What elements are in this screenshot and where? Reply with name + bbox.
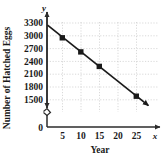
x-axis-title: Year bbox=[91, 145, 111, 155]
chart-container: 3300 3000 2700 2400 2100 1800 1500 0 5 1… bbox=[0, 0, 166, 157]
y-tick-label-1800: 1800 bbox=[24, 82, 43, 92]
y-tick-label-1500: 1500 bbox=[24, 95, 43, 105]
data-point-marker bbox=[78, 49, 83, 54]
data-point-marker bbox=[60, 35, 65, 40]
x-tick-label-10: 10 bbox=[76, 131, 86, 141]
y-tick-label-3300: 3300 bbox=[24, 18, 43, 28]
x-tick-label-25: 25 bbox=[132, 131, 142, 141]
x-axis-variable-symbol: x bbox=[152, 131, 158, 141]
y-tick-label-2400: 2400 bbox=[24, 57, 43, 67]
y-tick-label-2100: 2100 bbox=[24, 69, 43, 79]
y-tick-label-2700: 2700 bbox=[24, 44, 43, 54]
origin-label: 0 bbox=[38, 123, 43, 133]
y-tick-label-3000: 3000 bbox=[24, 31, 43, 41]
y-axis-title: Number of Hatched Eggs bbox=[2, 26, 12, 129]
data-point-marker bbox=[97, 64, 102, 69]
x-tick-label-15: 15 bbox=[95, 131, 105, 141]
x-tick-label-5: 5 bbox=[60, 131, 65, 141]
y-axis-variable-symbol: y bbox=[41, 3, 47, 13]
x-tick-label-20: 20 bbox=[113, 131, 123, 141]
hatched-eggs-line-chart: 3300 3000 2700 2400 2100 1800 1500 0 5 1… bbox=[0, 0, 166, 157]
data-point-marker bbox=[134, 94, 139, 99]
